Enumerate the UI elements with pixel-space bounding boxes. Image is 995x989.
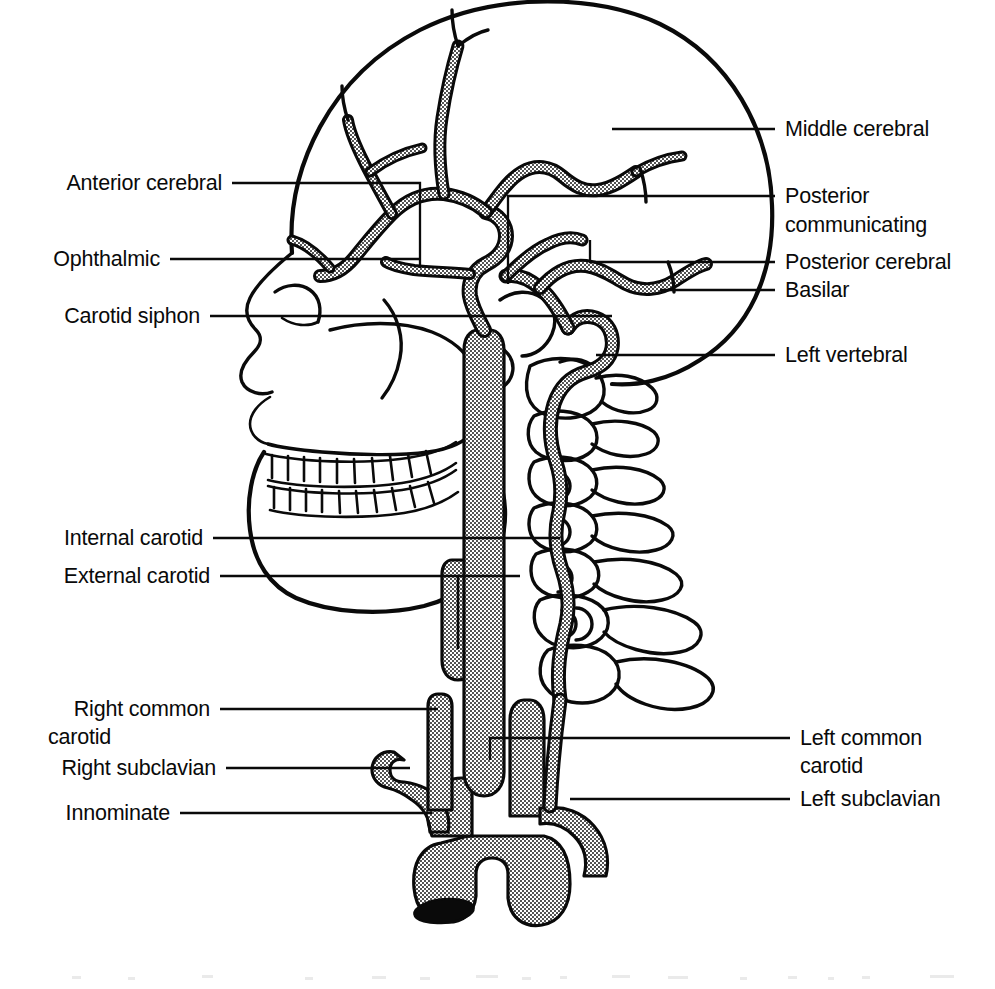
label-left-common-carotid-line2: carotid (800, 754, 863, 778)
label-posterior-cerebral: Posterior cerebral (785, 250, 951, 274)
label-right-subclavian: Right subclavian (61, 756, 216, 780)
label-carotid-siphon: Carotid siphon (64, 304, 200, 328)
label-external-carotid: External carotid (64, 564, 210, 588)
label-anterior-cerebral: Anterior cerebral (66, 171, 222, 195)
label-left-common-carotid-line1: Left common (800, 726, 922, 750)
label-ophthalmic: Ophthalmic (53, 247, 160, 271)
label-middle-cerebral: Middle cerebral (785, 117, 929, 141)
label-left-vertebral: Left vertebral (785, 343, 908, 367)
label-left-subclavian: Left subclavian (800, 787, 940, 811)
anatomical-diagram: Arterial supply to the brain: lateral vi… (0, 0, 995, 989)
internal-carotid-artery (464, 330, 504, 796)
label-innominate: Innominate (66, 801, 170, 825)
label-posterior-communicating-line2: communicating (785, 213, 927, 237)
label-right-common-carotid-line1: Right common (74, 697, 210, 721)
label-internal-carotid: Internal carotid (64, 526, 203, 550)
right-common-carotid-artery (428, 694, 452, 810)
figure-canvas: Arterial supply to the brain: lateral vi… (0, 0, 995, 989)
label-posterior-communicating-line1: Posterior (785, 184, 869, 208)
label-right-common-carotid-line2: carotid (48, 725, 111, 749)
label-basilar: Basilar (785, 278, 849, 302)
left-common-carotid-artery (510, 700, 544, 816)
